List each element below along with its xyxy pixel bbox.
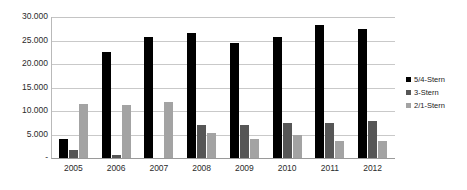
bar-2-1-stern-2012 bbox=[378, 141, 387, 158]
legend-swatch-icon bbox=[406, 90, 411, 95]
x-axis-label-2011: 2011 bbox=[309, 163, 352, 173]
bar-group-2012 bbox=[351, 17, 394, 158]
bar-group-2006 bbox=[95, 17, 138, 158]
bar-5-4-stern-2007 bbox=[144, 37, 153, 158]
bar-2-1-stern-2011 bbox=[335, 141, 344, 158]
bar-3-stern-2012 bbox=[368, 121, 377, 158]
y-axis-tick-label: 25.000 bbox=[3, 36, 48, 45]
bar-2-1-stern-2006 bbox=[122, 105, 131, 158]
bar-2-1-stern-2007 bbox=[164, 102, 173, 158]
x-axis-label-2009: 2009 bbox=[223, 163, 266, 173]
bar-chart: -5.00010.00015.00020.00025.00030.000 200… bbox=[0, 0, 467, 190]
bar-group-2008 bbox=[180, 17, 223, 158]
bar-3-stern-2009 bbox=[240, 125, 249, 158]
bar-3-stern-2006 bbox=[112, 155, 121, 158]
y-axis-tick-label: - bbox=[3, 153, 48, 162]
bar-2-1-stern-2008 bbox=[207, 133, 216, 158]
y-axis-tick-label: 30.000 bbox=[3, 12, 48, 21]
bar-group-2007 bbox=[138, 17, 181, 158]
bar-group-2009 bbox=[223, 17, 266, 158]
y-axis-tick-label: 20.000 bbox=[3, 59, 48, 68]
bar-2-1-stern-2010 bbox=[293, 135, 302, 159]
bar-2-1-stern-2005 bbox=[79, 104, 88, 158]
legend-item-2-1-stern[interactable]: 2/1-Stern bbox=[406, 99, 467, 112]
x-axis-label-2007: 2007 bbox=[138, 163, 181, 173]
chart-legend: 5/4-Stern3-Stern2/1-Stern bbox=[406, 73, 467, 112]
bar-5-4-stern-2010 bbox=[273, 37, 282, 158]
legend-swatch-icon bbox=[406, 77, 411, 82]
bar-5-4-stern-2011 bbox=[315, 25, 324, 158]
chart-title-cropped bbox=[0, 0, 467, 9]
bar-3-stern-2011 bbox=[325, 123, 334, 158]
legend-swatch-icon bbox=[406, 103, 411, 108]
x-axis-label-2012: 2012 bbox=[351, 163, 394, 173]
bar-3-stern-2008 bbox=[197, 125, 206, 158]
x-axis-label-2008: 2008 bbox=[180, 163, 223, 173]
x-axis-label-2006: 2006 bbox=[95, 163, 138, 173]
legend-item-3-stern[interactable]: 3-Stern bbox=[406, 86, 467, 99]
legend-label: 2/1-Stern bbox=[414, 101, 445, 110]
x-axis-label-2005: 2005 bbox=[52, 163, 95, 173]
bar-5-4-stern-2005 bbox=[59, 139, 68, 158]
bar-group-2011 bbox=[309, 17, 352, 158]
bar-group-2010 bbox=[266, 17, 309, 158]
legend-label: 5/4-Stern bbox=[414, 75, 445, 84]
bar-group-2005 bbox=[52, 17, 95, 158]
legend-item-5-4-stern[interactable]: 5/4-Stern bbox=[406, 73, 467, 86]
x-axis-label-2010: 2010 bbox=[266, 163, 309, 173]
bar-3-stern-2010 bbox=[283, 123, 292, 158]
bar-5-4-stern-2012 bbox=[358, 29, 367, 158]
bar-2-1-stern-2009 bbox=[250, 139, 259, 158]
legend-label: 3-Stern bbox=[414, 88, 439, 97]
y-axis-tick-label: 15.000 bbox=[3, 83, 48, 92]
y-axis-tick-label: 5.000 bbox=[3, 130, 48, 139]
bar-3-stern-2005 bbox=[69, 150, 78, 158]
y-axis-tick-label: 10.000 bbox=[3, 106, 48, 115]
x-axis-labels: 20052006200720082009201020112012 bbox=[52, 163, 394, 173]
bar-groups bbox=[52, 17, 394, 158]
bar-5-4-stern-2009 bbox=[230, 43, 239, 158]
bar-5-4-stern-2006 bbox=[102, 52, 111, 158]
y-axis: -5.00010.00015.00020.00025.00030.000 bbox=[0, 0, 48, 190]
bar-5-4-stern-2008 bbox=[187, 33, 196, 158]
